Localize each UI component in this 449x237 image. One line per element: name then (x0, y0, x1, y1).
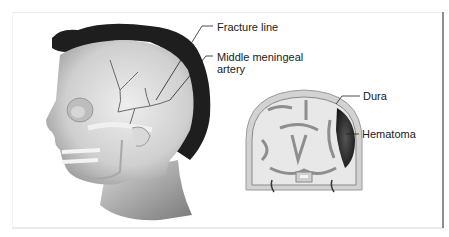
hematoma-label: Hematoma (362, 128, 416, 140)
middle-meningeal-label-line1: Middle meningeal (217, 51, 303, 63)
illustration (0, 0, 449, 237)
head-lateral-view (46, 24, 210, 220)
dura-label: Dura (363, 90, 387, 102)
middle-meningeal-label-line2: artery (217, 63, 245, 75)
coronal-section (246, 90, 362, 192)
fracture-line-label: Fracture line (217, 21, 278, 33)
